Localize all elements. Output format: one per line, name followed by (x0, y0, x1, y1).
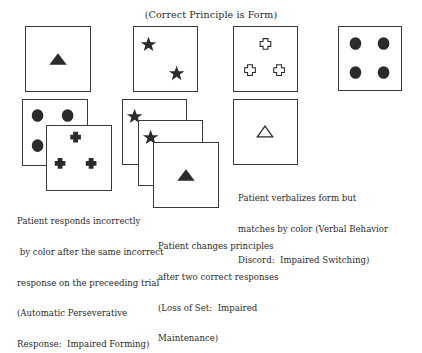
response-card-three-crosses (46, 125, 112, 191)
caption-line: response on the preceeding trial (17, 278, 163, 288)
caption-line: (Loss of Set: Impaired (158, 303, 278, 313)
circle-icon (339, 27, 401, 90)
caption-line: Discord: Impaired Switching) (238, 255, 388, 265)
cross-icon (47, 126, 111, 190)
triangle-outline-icon (234, 100, 297, 164)
caption-line: (Automatic Perseverative (17, 308, 163, 318)
key-card-one-triangle (25, 26, 91, 92)
caption-line: Patient verbalizes form but (238, 193, 388, 203)
response-card-triangle (153, 142, 219, 208)
caption-perseverative-response: Patient responds incorrectly by color af… (17, 196, 163, 353)
caption-line: Response: Impaired Forming) (17, 339, 163, 349)
caption-line: Maintenance) (158, 333, 278, 343)
triangle-icon (26, 27, 90, 91)
star-icon (134, 27, 197, 91)
response-card-outline-triangle (233, 99, 298, 165)
caption-verbal-behavior-discord: Patient verbalizes form but matches by c… (238, 173, 388, 285)
cross-icon (234, 27, 297, 91)
diagram-title: (Correct Principle is Form) (0, 9, 422, 20)
key-card-four-circles (338, 26, 402, 91)
caption-line: by color after the same incorrect (17, 247, 163, 257)
triangle-icon (154, 143, 218, 207)
key-card-three-crosses (233, 26, 298, 92)
caption-line: matches by color (Verbal Behavior (238, 224, 388, 234)
caption-line: Patient responds incorrectly (17, 216, 163, 226)
key-card-two-stars (133, 26, 198, 92)
